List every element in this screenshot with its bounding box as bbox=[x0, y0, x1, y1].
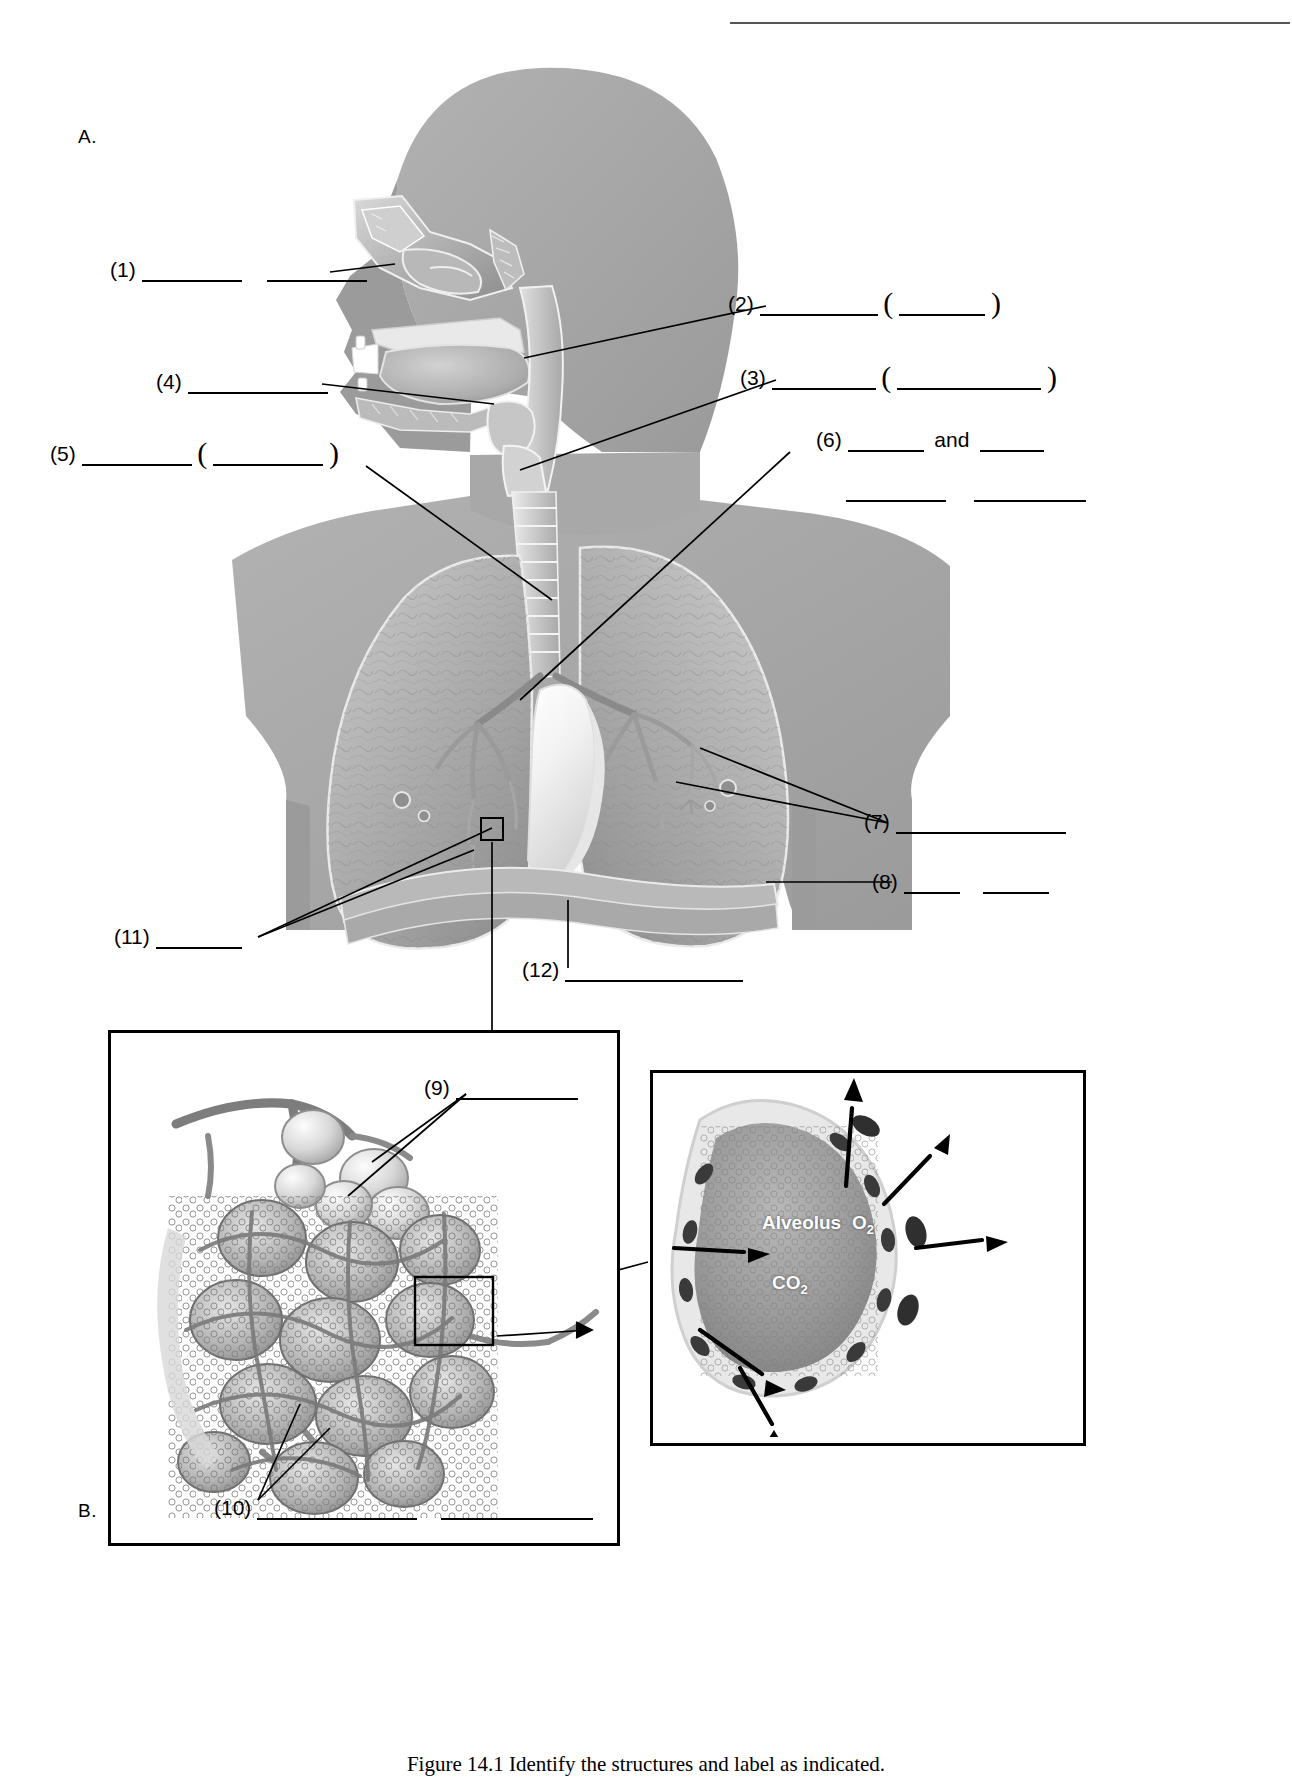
carbon-dioxide-subscript: 2 bbox=[801, 1282, 808, 1297]
label-7: (7) bbox=[864, 810, 1066, 834]
label-2-blank-2[interactable] bbox=[899, 292, 985, 316]
paren-open-5: ( bbox=[197, 442, 207, 463]
label-7-blank-1[interactable] bbox=[896, 810, 1066, 834]
inset-b-box bbox=[108, 1030, 620, 1546]
inset-gas-exchange-box bbox=[650, 1070, 1086, 1446]
label-4-number: (4) bbox=[156, 370, 182, 394]
label-4-blank-1[interactable] bbox=[188, 370, 328, 394]
label-8: (8) bbox=[872, 870, 1049, 894]
label-9-blank-1[interactable] bbox=[456, 1076, 578, 1100]
paren-close-2: ) bbox=[991, 292, 1001, 313]
label-10-blank-2[interactable] bbox=[441, 1496, 593, 1520]
label-8-blank-1[interactable] bbox=[904, 870, 960, 894]
label-2-blank-1[interactable] bbox=[760, 292, 878, 316]
label-6: (6) and bbox=[816, 428, 1044, 452]
label-2: (2) ( ) bbox=[728, 292, 1001, 316]
label-8-number: (8) bbox=[872, 870, 898, 894]
label-10-number: (10) bbox=[214, 1496, 251, 1520]
carbon-dioxide-label: CO2 bbox=[772, 1272, 808, 1297]
label-1-blank-1[interactable] bbox=[142, 258, 242, 282]
paren-close-5: ) bbox=[329, 442, 339, 463]
label-11-blank-1[interactable] bbox=[156, 925, 242, 949]
label-7-number: (7) bbox=[864, 810, 890, 834]
label-6-blank-3[interactable] bbox=[846, 478, 946, 502]
carbon-dioxide-symbol: CO bbox=[772, 1272, 801, 1293]
figure-caption: Figure 14.1 Identify the structures and … bbox=[0, 1752, 1292, 1777]
paren-close-3: ) bbox=[1047, 366, 1057, 387]
label-6-number: (6) bbox=[816, 428, 842, 452]
label-6-blank-4[interactable] bbox=[974, 478, 1086, 502]
label-10-blank-1[interactable] bbox=[257, 1496, 417, 1520]
label-6-conjunction: and bbox=[929, 428, 974, 452]
label-5-blank-1[interactable] bbox=[82, 442, 192, 466]
figure-a-letter: A. bbox=[78, 126, 97, 148]
figure-b-letter: B. bbox=[78, 1500, 97, 1522]
worksheet-page: A. (1) (4) (5) ( ) (2) ( ) (3) ( ) (6) bbox=[0, 0, 1292, 1791]
label-1-blank-2[interactable] bbox=[267, 258, 367, 282]
label-11-number: (11) bbox=[114, 925, 150, 949]
label-1: (1) bbox=[110, 258, 367, 282]
label-8-blank-2[interactable] bbox=[983, 870, 1049, 894]
label-4: (4) bbox=[156, 370, 328, 394]
label-6-line2 bbox=[846, 478, 1086, 502]
label-6-blank-2[interactable] bbox=[980, 428, 1044, 452]
alveolus-label: Alveolus bbox=[762, 1212, 841, 1234]
label-3-number: (3) bbox=[740, 366, 766, 390]
label-11: (11) bbox=[114, 925, 242, 949]
paren-open-2: ( bbox=[883, 292, 893, 313]
label-5-number: (5) bbox=[50, 442, 76, 466]
label-3: (3) ( ) bbox=[740, 366, 1057, 390]
label-12-blank-1[interactable] bbox=[565, 958, 743, 982]
label-5-blank-2[interactable] bbox=[213, 442, 323, 466]
label-10: (10) bbox=[214, 1496, 593, 1520]
oxygen-symbol: O bbox=[852, 1212, 867, 1233]
label-5: (5) ( ) bbox=[50, 442, 339, 466]
label-12: (12) bbox=[522, 958, 743, 982]
header-rule bbox=[730, 22, 1290, 24]
label-2-number: (2) bbox=[728, 292, 754, 316]
paren-open-3: ( bbox=[881, 366, 891, 387]
label-9-number: (9) bbox=[424, 1076, 450, 1100]
oxygen-label: O2 bbox=[852, 1212, 874, 1237]
label-6-blank-1[interactable] bbox=[848, 428, 924, 452]
label-1-number: (1) bbox=[110, 258, 136, 282]
label-3-blank-2[interactable] bbox=[897, 366, 1041, 390]
label-3-blank-1[interactable] bbox=[772, 366, 876, 390]
oxygen-subscript: 2 bbox=[867, 1222, 874, 1237]
label-12-number: (12) bbox=[522, 958, 559, 982]
label-9: (9) bbox=[424, 1076, 578, 1100]
